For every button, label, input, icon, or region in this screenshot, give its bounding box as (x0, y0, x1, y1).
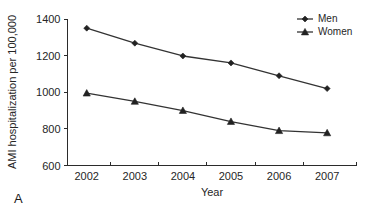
legend-item-men: Men (297, 13, 337, 24)
data-point-marker (324, 86, 330, 92)
data-point-marker (276, 73, 282, 79)
ami-hospitalization-line-chart: 600800100012001400 200220032004200520062… (0, 0, 373, 216)
data-point-marker (132, 40, 138, 46)
y-tick-label: 600 (42, 160, 60, 172)
data-point-marker (84, 25, 90, 31)
series-line-men (87, 28, 327, 88)
data-point-marker (180, 53, 186, 59)
series-women (83, 90, 331, 136)
y-tick-label: 800 (42, 123, 60, 135)
data-point-marker (83, 90, 90, 96)
legend-label: Women (318, 26, 352, 37)
x-tick-label: 2004 (171, 170, 195, 182)
x-tick-label: 2006 (267, 170, 291, 182)
figure-panel-a: 600800100012001400 200220032004200520062… (0, 0, 373, 216)
legend-item-women: Women (297, 26, 352, 37)
x-axis-tick-labels: 200220032004200520062007 (74, 170, 339, 182)
y-tick-label: 1000 (36, 86, 60, 98)
series-line-women (87, 93, 327, 133)
series-men (84, 25, 330, 91)
data-series-layer (83, 25, 331, 136)
x-tick-label: 2005 (219, 170, 243, 182)
x-tick-label: 2007 (315, 170, 339, 182)
data-point-marker (302, 16, 308, 22)
x-tick-label: 2002 (74, 170, 98, 182)
data-point-marker (228, 60, 234, 66)
x-axis-title: Year (201, 186, 224, 198)
y-tick-label: 1200 (36, 50, 60, 62)
chart-legend: MenWomen (297, 13, 352, 37)
y-axis-tick-labels: 600800100012001400 (36, 13, 60, 172)
legend-label: Men (318, 13, 337, 24)
x-tick-label: 2003 (123, 170, 147, 182)
y-tick-label: 1400 (36, 13, 60, 25)
panel-label: A (14, 191, 23, 206)
y-axis-title: AMI hospitalization per 100,000 (6, 15, 18, 169)
